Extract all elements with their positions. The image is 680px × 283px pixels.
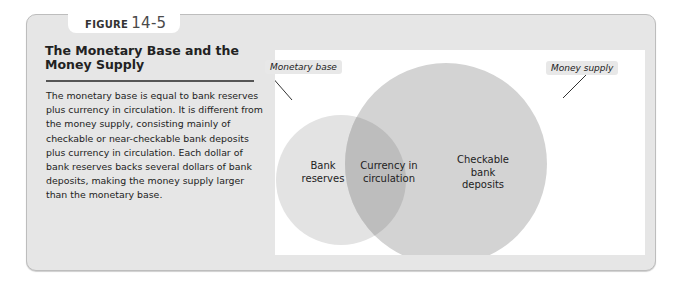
money-supply-callout: Money supply (546, 61, 618, 75)
checkable-line-2: bank (443, 167, 523, 180)
figure-label: FIGURE14-5 (85, 13, 166, 32)
figure-number: 14-5 (131, 14, 166, 32)
currency-in-circulation-label: Currency in circulation (353, 160, 425, 185)
monetary-base-callout: Monetary base (265, 60, 342, 74)
figure-label-word: FIGURE (85, 19, 128, 30)
bank-reserves-line-1: Bank (293, 160, 353, 173)
monetary-base-leader-line (275, 76, 292, 100)
currency-line-1: Currency in (353, 160, 425, 173)
checkable-line-1: Checkable (443, 154, 523, 167)
money-supply-leader-line (563, 74, 587, 98)
figure-title: The Monetary Base and the Money Supply (45, 44, 265, 72)
checkable-deposits-label: Checkable bank deposits (443, 154, 523, 192)
bank-reserves-label: Bank reserves (293, 160, 353, 185)
currency-line-2: circulation (353, 173, 425, 186)
bank-reserves-line-2: reserves (293, 173, 353, 186)
venn-diagram: Monetary base Money supply Bank reserves… (275, 50, 645, 255)
figure-caption: The monetary base is equal to bank reser… (46, 89, 264, 203)
venn-svg (275, 50, 645, 255)
checkable-line-3: deposits (443, 179, 523, 192)
title-divider (46, 80, 254, 82)
